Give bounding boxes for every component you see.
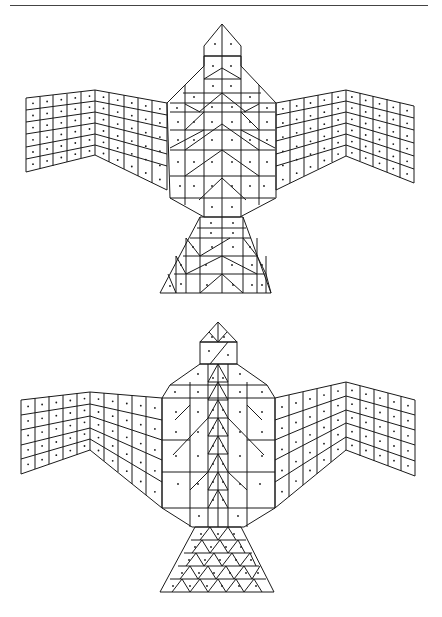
eagle-diagrams [0, 0, 442, 617]
eagle-top-right-wing [276, 90, 414, 190]
eagle-top [26, 24, 414, 293]
eagle-bottom [21, 322, 415, 592]
eagle-top-tail [160, 217, 271, 293]
eagle-top-left-wing [26, 90, 167, 190]
eagle-bottom-right-wing [275, 382, 415, 508]
eagle-bottom-tail [160, 527, 274, 592]
eagle-top-torso [167, 56, 276, 217]
eagle-bottom-torso [162, 364, 275, 527]
eagle-top-head [204, 24, 241, 56]
eagle-bottom-head [200, 322, 237, 364]
eagle-bottom-left-wing [21, 392, 162, 508]
